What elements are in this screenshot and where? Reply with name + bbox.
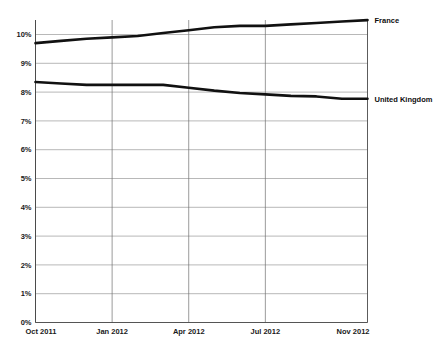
y-tick-label: 8% [21,88,32,97]
series-label-france: France [375,16,400,25]
line-chart: 0%1%2%3%4%5%6%7%8%9%10% Oct 2011Jan 2012… [0,0,447,355]
x-tick-label: Nov 2012 [337,327,370,336]
axes [36,20,368,323]
data-series [36,20,368,99]
series-line-united-kingdom [36,82,368,99]
y-tick-label: 4% [21,203,32,212]
y-tick-label: 3% [21,232,32,241]
y-tick-label: 10% [16,30,31,39]
series-labels: FranceUnited Kingdom [375,16,433,104]
gridlines-horizontal [36,35,368,323]
y-tick-label: 1% [21,289,32,298]
x-tick-label: Apr 2012 [173,327,205,336]
y-tick-label: 6% [21,145,32,154]
y-tick-label: 9% [21,59,32,68]
y-tick-label: 7% [21,117,32,126]
chart-canvas: 0%1%2%3%4%5%6%7%8%9%10% Oct 2011Jan 2012… [0,0,447,355]
x-tick-label: Jul 2012 [251,327,281,336]
y-tick-label: 2% [21,261,32,270]
y-axis-tick-labels: 0%1%2%3%4%5%6%7%8%9%10% [16,30,31,327]
gridlines-vertical [36,20,368,323]
y-tick-label: 5% [21,174,32,183]
series-line-france [36,20,368,43]
series-label-united-kingdom: United Kingdom [375,95,433,104]
x-axis-tick-labels: Oct 2011Jan 2012Apr 2012Jul 2012Nov 2012 [26,327,370,336]
x-tick-label: Oct 2011 [26,327,57,336]
x-tick-label: Jan 2012 [96,327,128,336]
